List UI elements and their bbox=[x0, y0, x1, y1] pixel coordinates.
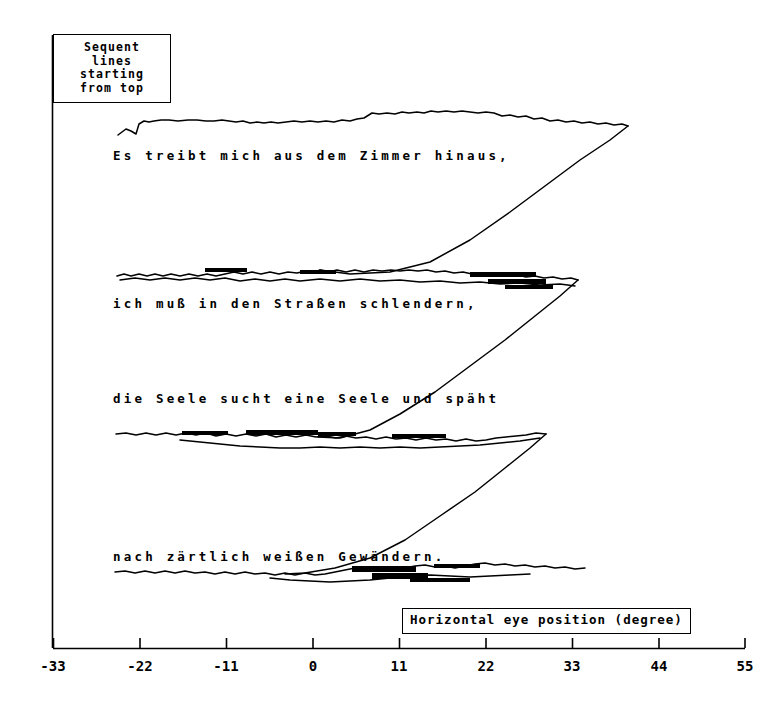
x-tick-label-8: 55 bbox=[715, 658, 766, 674]
legend-line-2: lines bbox=[58, 55, 166, 69]
x-tick-label-3: 0 bbox=[283, 658, 343, 674]
poem-line-1: Es treibt mich aus dem Zimmer hinaus, bbox=[113, 148, 510, 163]
poem-line-2: ich muß in den Straßen schlendern, bbox=[113, 296, 478, 311]
x-tick-label-4: 11 bbox=[369, 658, 429, 674]
x-tick-label-6: 33 bbox=[542, 658, 602, 674]
trace-line-4 bbox=[115, 563, 585, 575]
fixation-clusters bbox=[182, 268, 553, 582]
x-tick-label-2: -11 bbox=[196, 658, 256, 674]
x-tick-label-0: -33 bbox=[23, 658, 83, 674]
eye-movement-chart bbox=[0, 0, 766, 706]
x-tick-label-7: 44 bbox=[629, 658, 689, 674]
x-axis-ticks bbox=[54, 638, 746, 648]
legend-line-1: Sequent bbox=[58, 41, 166, 55]
eye-traces bbox=[115, 111, 628, 582]
legend-line-4: from top bbox=[58, 82, 166, 96]
trace-line-1 bbox=[118, 111, 628, 135]
poem-line-4: nach zärtlich weißen Gewändern. bbox=[113, 549, 446, 564]
x-axis-title: Horizontal eye position (degree) bbox=[402, 608, 691, 634]
x-tick-label-1: -22 bbox=[110, 658, 170, 674]
x-tick-label-5: 22 bbox=[456, 658, 516, 674]
legend-box: Sequent lines starting from top bbox=[53, 34, 171, 103]
poem-line-3: die Seele sucht eine Seele und späht bbox=[113, 391, 499, 406]
legend-line-3: starting bbox=[58, 68, 166, 82]
